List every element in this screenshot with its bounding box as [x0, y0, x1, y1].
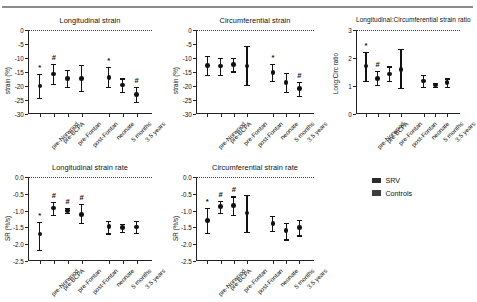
x-tick [221, 261, 222, 264]
x-tick [68, 261, 69, 264]
marker-dot [284, 228, 289, 233]
x-tick [207, 114, 208, 117]
y-tick-label: -10 [183, 55, 192, 62]
y-tick-label: -15 [183, 69, 192, 76]
x-tick [234, 261, 235, 264]
error-bar-cap-upper [244, 46, 249, 47]
x-axis-line [196, 113, 314, 114]
y-axis-line [28, 177, 29, 261]
y-tick-label: -10 [15, 55, 24, 62]
y-tick-label: -25 [15, 97, 24, 104]
data-point [421, 78, 427, 84]
data-point [283, 79, 289, 85]
y-tick-label: 0 [348, 111, 352, 118]
error-bar-cap-lower [120, 232, 125, 233]
significance-marker: # [135, 77, 139, 85]
marker-dot [421, 79, 426, 84]
error-bar-cap-lower [79, 91, 84, 92]
error-bar-cap-lower [284, 239, 289, 240]
significance-marker: # [232, 186, 236, 194]
error-bar-cap-lower [218, 213, 223, 214]
error-bar-cap-upper [270, 216, 275, 217]
panel-title: Longitudinal:Circumferential strain rati… [356, 16, 460, 23]
data-point [283, 228, 289, 234]
y-tick [25, 261, 28, 262]
error-bar-cap-lower [37, 250, 42, 251]
error-bar-cap-lower [205, 75, 210, 76]
y-tick [193, 86, 196, 87]
y-tick-label: -5 [18, 41, 24, 48]
data-point [296, 86, 302, 92]
error-bar-cap-upper [134, 87, 139, 88]
y-tick [193, 261, 196, 262]
error-bar-cap-upper [231, 58, 236, 59]
x-tick [299, 261, 300, 264]
marker-dot [107, 224, 112, 229]
x-tick [109, 261, 110, 264]
data-point [244, 210, 250, 216]
error-bar-cap-upper [398, 49, 403, 50]
y-tick [353, 30, 356, 31]
y-tick-label: -2.0 [13, 241, 24, 248]
marker-dot [51, 206, 56, 211]
error-bar-cap-upper [120, 78, 125, 79]
y-axis-label: strain (%) [172, 67, 179, 94]
error-bar-cap-upper [37, 74, 42, 75]
data-point [120, 225, 126, 231]
marker-dot [107, 75, 112, 80]
x-tick [366, 114, 367, 117]
y-axis-label: SR (%/s) [172, 216, 179, 241]
marker-dot [79, 212, 84, 217]
y-tick-label: 0 [20, 27, 24, 34]
error-bar-cap-upper [79, 204, 84, 205]
y-tick [25, 58, 28, 59]
y-tick [193, 227, 196, 228]
y-tick [25, 44, 28, 45]
error-bar-cap-lower [244, 232, 249, 233]
data-point [51, 71, 57, 77]
marker-dot [38, 84, 43, 89]
error-bar-cap-lower [65, 213, 70, 214]
error-bar-cap-upper [51, 64, 56, 65]
error-bar-cap-lower [375, 85, 380, 86]
panel-title: Circumferential strain rate [196, 163, 314, 172]
x-tick [286, 261, 287, 264]
error-bar-cap-upper [297, 82, 302, 83]
y-tick [25, 194, 28, 195]
marker-dot [120, 225, 125, 230]
data-point [37, 231, 43, 237]
marker-dot [134, 92, 139, 97]
reference-line [356, 30, 460, 31]
error-bar-cap-lower [106, 87, 111, 88]
error-bar-cap-lower [106, 233, 111, 234]
error-bar-cap-lower [363, 81, 368, 82]
error-bar-cap-lower [65, 87, 70, 88]
data-point [244, 63, 250, 69]
legend: SRVControls [372, 176, 412, 201]
y-tick-label: 0.0 [15, 174, 24, 181]
error-bar-cap-lower [231, 71, 236, 72]
legend-label: SRV [385, 176, 400, 185]
error-bar-cap-upper [445, 78, 450, 79]
error-bar-cap-lower [398, 88, 403, 89]
error-bar-cap-lower [134, 102, 139, 103]
data-point [120, 82, 126, 88]
x-tick [137, 261, 138, 264]
x-tick [54, 261, 55, 264]
y-tick [25, 211, 28, 212]
significance-marker: * [107, 57, 110, 65]
marker-dot [51, 72, 56, 77]
error-bar-cap-upper [218, 58, 223, 59]
x-tick [109, 114, 110, 117]
significance-marker: * [271, 54, 274, 62]
y-tick [193, 72, 196, 73]
y-tick [193, 177, 196, 178]
x-tick [286, 114, 287, 117]
error-bar-cap-upper [218, 201, 223, 202]
error-bar-cap-upper [134, 221, 139, 222]
y-tick-label: 2 [348, 55, 352, 62]
data-point [363, 63, 369, 69]
y-tick-label: -1.5 [13, 224, 24, 231]
data-point [51, 205, 57, 211]
y-tick-label: -1.5 [181, 224, 192, 231]
